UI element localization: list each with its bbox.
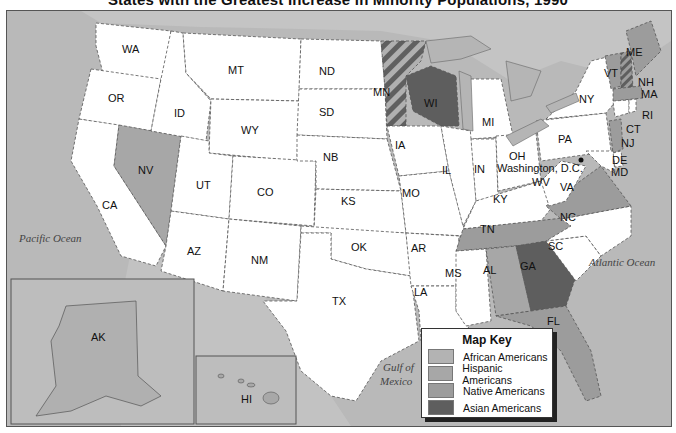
label-AZ: AZ <box>187 245 201 257</box>
hawaii-inset <box>196 356 296 424</box>
swatch-native-americans <box>428 383 454 398</box>
label-ID: ID <box>174 107 185 119</box>
label-PA: PA <box>558 133 573 145</box>
label-KY: KY <box>493 193 508 205</box>
gulf-label-2: Mexico <box>379 375 413 387</box>
label-OR: OR <box>108 92 125 104</box>
key-item-hispanic-americans: Hispanic Americans <box>428 366 552 381</box>
pacific-ocean-label: Pacific Ocean <box>18 232 82 244</box>
label-NB: NB <box>323 151 338 163</box>
label-AK: AK <box>91 331 106 343</box>
label-NM: NM <box>251 254 268 266</box>
label-MO: MO <box>402 187 420 199</box>
label-NY: NY <box>579 93 595 105</box>
label-WI: WI <box>424 97 437 109</box>
label-AR: AR <box>411 242 426 254</box>
state-RI <box>629 99 636 113</box>
label-MA: MA <box>641 88 658 100</box>
key-item-native-americans: Native Americans <box>428 383 552 398</box>
map-title: States with the Greatest Increase in Min… <box>0 0 676 8</box>
us-map-svg: Pacific Ocean Atlantic Ocean Gulf of Mex… <box>7 11 671 426</box>
key-item-asian-americans: Asian Americans <box>428 400 552 415</box>
label-FL: FL <box>547 315 560 327</box>
state-CT <box>613 100 629 117</box>
label-CO: CO <box>257 186 274 198</box>
state-MS <box>456 249 491 326</box>
key-label: Hispanic Americans <box>462 362 552 386</box>
swatch-african-americans <box>428 349 454 364</box>
swatch-hispanic-americans <box>428 366 453 381</box>
label-CA: CA <box>102 199 118 211</box>
label-CT: CT <box>626 123 641 135</box>
label-IL: IL <box>442 164 451 176</box>
label-KS: KS <box>341 195 356 207</box>
label-ME: ME <box>626 46 643 58</box>
label-DE: DE <box>612 154 627 166</box>
label-washington-dc: Washington, D.C. <box>497 162 583 174</box>
label-OH: OH <box>509 150 526 162</box>
label-NJ: NJ <box>621 137 634 149</box>
label-MI: MI <box>482 116 494 128</box>
label-RI: RI <box>642 109 653 121</box>
label-NV: NV <box>138 164 154 176</box>
state-MA <box>613 86 643 101</box>
map-key: Map Key African Americans Hispanic Ameri… <box>421 328 553 418</box>
capital-star-icon <box>579 158 584 163</box>
label-ND: ND <box>319 65 335 77</box>
label-GA: GA <box>520 260 537 272</box>
label-MN: MN <box>373 86 390 98</box>
state-ND <box>299 39 385 89</box>
label-WV: WV <box>532 176 550 188</box>
key-label: Native Americans <box>463 385 545 397</box>
label-SD: SD <box>319 106 334 118</box>
label-TX: TX <box>332 295 347 307</box>
state-IA <box>387 126 449 176</box>
state-WI <box>406 66 459 126</box>
label-UT: UT <box>196 179 211 191</box>
label-NH: NH <box>638 76 654 88</box>
state-KS <box>314 189 406 233</box>
label-TN: TN <box>480 223 495 235</box>
label-MS: MS <box>445 267 462 279</box>
atlantic-ocean-label: Atlantic Ocean <box>588 256 656 268</box>
label-OK: OK <box>351 241 368 253</box>
label-WA: WA <box>122 43 140 55</box>
label-LA: LA <box>414 286 428 298</box>
key-label: Asian Americans <box>463 402 541 414</box>
label-HI: HI <box>241 393 252 405</box>
swatch-asian-americans <box>428 400 454 415</box>
label-VA: VA <box>560 181 575 193</box>
gulf-label-1: Gulf of <box>383 361 416 373</box>
map-key-title: Map Key <box>422 333 552 347</box>
label-AL: AL <box>483 264 496 276</box>
label-MT: MT <box>228 64 244 76</box>
label-NC: NC <box>560 211 576 223</box>
label-IA: IA <box>395 139 406 151</box>
label-SC: SC <box>548 240 563 252</box>
label-WY: WY <box>241 124 259 136</box>
label-MD: MD <box>611 166 628 178</box>
map: Pacific Ocean Atlantic Ocean Gulf of Mex… <box>6 10 672 427</box>
label-IN: IN <box>474 163 485 175</box>
label-VT: VT <box>604 67 618 79</box>
